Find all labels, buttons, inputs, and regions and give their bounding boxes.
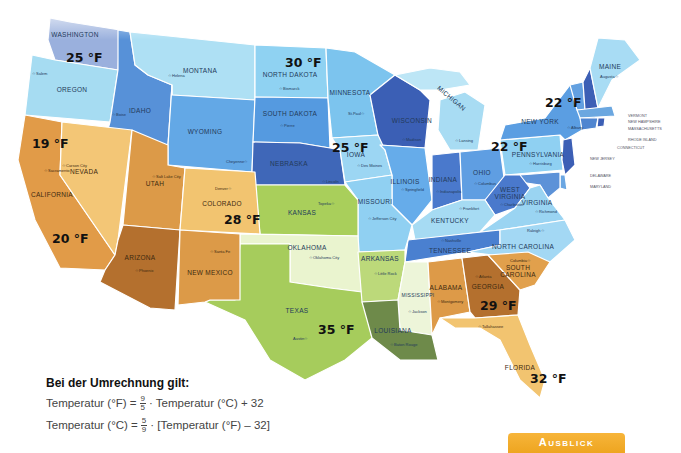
label-florida: FLORIDA: [505, 364, 536, 371]
capital-atlanta: ☆Atlanta: [475, 274, 492, 279]
label-new-york: NEW YORK: [521, 118, 559, 125]
label-mississippi: MISSISSIPPI: [401, 292, 434, 298]
capital-st-paul: St.Paul☆: [348, 111, 365, 116]
label-south-carolina-2: CAROLINA: [500, 271, 536, 278]
capital-baton-rouge: ☆Baton Rouge: [390, 342, 418, 347]
label-north-dakota: NORTH DAKOTA: [263, 71, 318, 78]
state-mississippi: [398, 262, 432, 335]
temp-washington: 25 °F: [66, 50, 103, 65]
capital-tallahassee: ☆Tallahassee: [478, 324, 504, 329]
label-maine: MAINE: [599, 63, 621, 70]
capital-augusta: Augusta☆: [600, 74, 619, 79]
label-wisconsin: WISCONSIN: [392, 117, 432, 124]
capital-phoenix: ☆Phoenix: [135, 268, 153, 273]
label-new-hampshire: NEW HAMPSHIRE: [628, 120, 661, 124]
capital-lansing: ☆Lansing: [455, 138, 473, 143]
label-colorado: COLORADO: [202, 200, 242, 207]
label-maryland: MARYLAND: [590, 185, 611, 189]
label-oklahoma: OKLAHOMA: [287, 244, 327, 251]
formula-c-from-f: Temperatur (°C) = 5 9 · [Temperatur (°F)…: [46, 414, 270, 436]
label-south-carolina: SOUTH: [506, 264, 530, 271]
capital-des-moines: ☆Des Moines: [357, 163, 382, 168]
capital-madison: ☆Madison: [402, 137, 421, 142]
temp-california-north: 19 °F: [32, 136, 69, 151]
capital-pierre: ☆Pierre: [280, 123, 295, 128]
capital-bismarck: ☆Bismarck: [279, 86, 299, 91]
capital-sacramento: ☆Sacramento: [44, 168, 70, 173]
label-rhode-island: RHODE ISLAND: [628, 138, 657, 142]
temp-texas: 35 °F: [318, 322, 355, 337]
label-new-mexico: NEW MEXICO: [187, 269, 233, 276]
label-west-virginia: WEST: [500, 186, 520, 193]
label-montana: MONTANA: [183, 67, 217, 74]
capital-richmond: ☆Richmond: [535, 209, 557, 214]
label-california: CALIFORNIA: [31, 191, 73, 198]
capital-boise: ☆Boise: [112, 112, 127, 117]
capital-topeka: Topeka☆: [318, 201, 335, 206]
capital-columbia: Columbia☆: [510, 258, 531, 263]
capital-lincoln: ☆Lincoln: [322, 179, 339, 184]
capital-harrisburg: ☆Harrisburg: [529, 161, 552, 166]
capital-frankfort: ☆Frankfort: [459, 206, 480, 211]
formula-1-right: · Temperatur (°C) + 32: [149, 397, 264, 409]
ausblick-tab[interactable]: Ausblick: [508, 433, 625, 453]
temp-new-york: 22 °F: [545, 95, 582, 110]
capital-salt-lake-city: ☆Salt Lake City: [152, 174, 181, 179]
capital-austin: Austin☆: [293, 336, 308, 341]
label-tennessee: TENNESSEE: [429, 247, 471, 254]
formula-1-left: Temperatur (°F) =: [46, 397, 137, 409]
fraction-denominator: 9: [142, 426, 146, 434]
temp-colorado: 28 °F: [224, 212, 261, 227]
label-illinois: ILLINOIS: [390, 178, 419, 185]
label-vermont: VERMONT: [628, 114, 648, 118]
label-delaware: DELAWARE: [590, 174, 611, 178]
state-maine: [590, 38, 640, 108]
capital-columbus: ☆Columbus: [474, 181, 496, 186]
top-fade: [0, 0, 681, 40]
fraction-denominator: 5: [141, 404, 145, 412]
state-delaware: [560, 175, 567, 190]
label-ohio: OHIO: [473, 169, 491, 176]
capital-raleigh: Raleigh☆: [527, 228, 545, 233]
temp-california-south: 20 °F: [52, 231, 89, 246]
capital-santa-fe: ☆Santa Fe: [210, 249, 231, 254]
label-arkansas: ARKANSAS: [361, 255, 399, 262]
capital-nashville: ☆Nashville: [441, 238, 462, 243]
temp-florida: 32 °F: [530, 371, 567, 386]
temp-pennsylvania: 22 °F: [491, 139, 528, 154]
capital-salem: ☆Salem: [32, 71, 48, 76]
formula-2-right: · [Temperatur (°F) – 32]: [150, 419, 270, 431]
capital-indianapolis: ☆Indianapolis: [436, 189, 461, 194]
label-oregon: OREGON: [57, 86, 88, 93]
state-rhode-island: [597, 118, 605, 127]
label-connecticut: CONNECTICUT: [617, 146, 645, 150]
label-washington: WASHINGTON: [51, 31, 98, 38]
capital-helena: ☆Helena: [168, 73, 185, 78]
formula-f-from-c: Temperatur (°F) = 9 5 · Temperatur (°C) …: [46, 392, 270, 414]
temp-georgia: 29 °F: [480, 298, 517, 313]
formula-title: Bei der Umrechnung gilt:: [46, 376, 270, 390]
label-texas: TEXAS: [286, 307, 309, 314]
capital-oklahoma-city: ☆Oklahoma City: [309, 255, 339, 260]
conversion-formula-box: Bei der Umrechnung gilt: Temperatur (°F)…: [46, 376, 270, 436]
capital-springfield: ☆Springfield: [401, 187, 424, 192]
label-nevada: NEVADA: [70, 168, 98, 175]
formula-2-left: Temperatur (°C) =: [46, 419, 138, 431]
capital-albany: ☆Albany: [567, 125, 583, 130]
capital-denver: Denver☆: [215, 186, 232, 191]
label-georgia: GEORGIA: [472, 283, 505, 290]
label-arizona: ARIZONA: [125, 254, 156, 261]
fraction-9-5: 9 5: [140, 395, 146, 412]
capital-little-rock: ☆Little Rock: [374, 271, 397, 276]
capital-charleston: ☆Charleston: [500, 202, 523, 207]
label-virginia: VIRGINIA: [522, 199, 553, 206]
label-new-jersey: NEW JERSEY: [590, 157, 615, 161]
capital-cheyenne: Cheyenne☆: [226, 159, 248, 164]
label-massachusetts: MASSACHUSETTS: [628, 127, 662, 131]
label-idaho: IDAHO: [129, 107, 151, 114]
temp-iowa: 25 °F: [332, 140, 369, 155]
label-alabama: ALABAMA: [430, 284, 463, 291]
label-north-carolina: NORTH CAROLINA: [492, 243, 555, 250]
label-kentucky: KENTUCKY: [431, 217, 469, 224]
label-minnesota: MINNESOTA: [330, 89, 371, 96]
